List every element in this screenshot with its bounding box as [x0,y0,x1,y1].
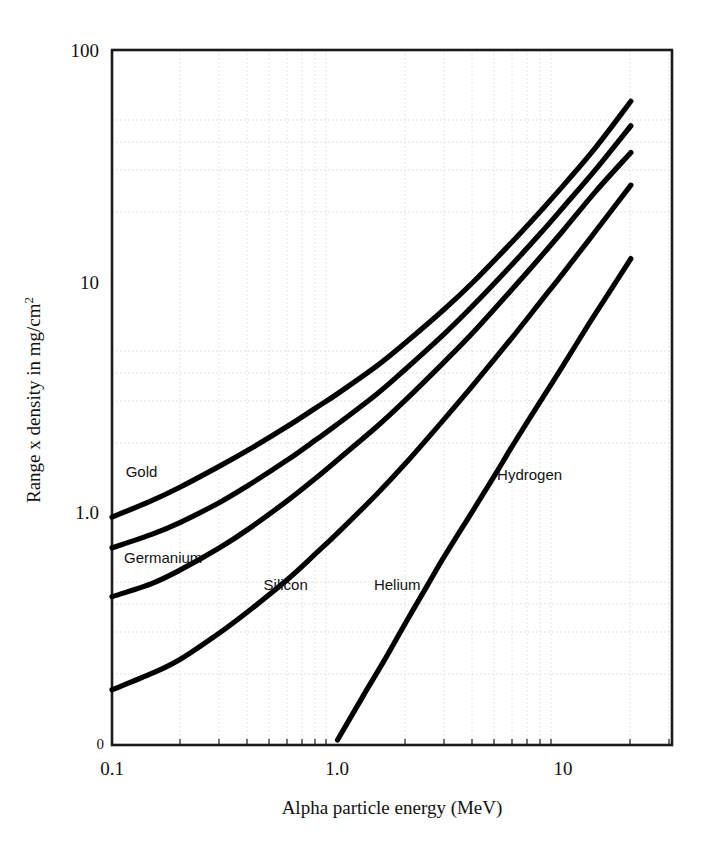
series-label-germanium: Germanium [124,549,202,566]
curve-helium [112,185,631,690]
y-tick-label-100: 100 [71,40,100,61]
series-label-helium: Helium [374,576,421,593]
x-tick-label-1-0: 1.0 [325,758,349,779]
curve-hydrogen [338,259,631,740]
x-axis-title: Alpha particle energy (MeV) [282,797,503,819]
x-tick-label-10: 10 [554,758,573,779]
curve-gold [112,101,631,517]
figure-container: Gold Germanium Silicon Helium Hydrogen 1… [0,0,702,842]
vertical-gridlines [180,50,669,745]
series-label-hydrogen: Hydrogen [497,466,562,483]
series-label-gold: Gold [126,463,158,480]
y-axis-title-superscript: 2 [21,297,36,304]
data-curves [112,101,631,740]
y-axis-title-main: Range x density in mg/cm [23,303,44,503]
range-vs-energy-chart: Gold Germanium Silicon Helium Hydrogen 1… [0,0,702,842]
y-axis-title-group: Range x density in mg/cm2 [21,297,44,503]
y-tick-label-10: 10 [80,272,99,293]
y-tick-label-1: 1.0 [75,502,99,523]
x-tick-label-0-1: 0.1 [100,758,124,779]
series-label-silicon: Silicon [264,576,308,593]
y-tick-label-0: 0 [97,736,105,752]
y-axis-title: Range x density in mg/cm2 [21,297,44,503]
